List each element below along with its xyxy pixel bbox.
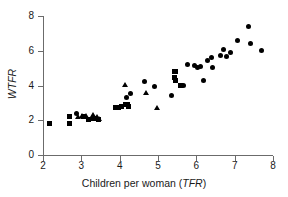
data-point-square xyxy=(47,121,52,126)
data-point-circle xyxy=(142,79,147,84)
data-point-circle xyxy=(152,84,157,89)
data-point-circle xyxy=(201,78,206,83)
data-point-square xyxy=(173,69,178,74)
data-point-circle xyxy=(246,24,251,29)
data-point-square xyxy=(126,104,131,109)
data-point-triangle xyxy=(154,105,160,110)
data-point-circle xyxy=(248,41,253,46)
y-axis-title: WTFR xyxy=(6,54,18,114)
data-point-circle xyxy=(169,93,174,98)
data-point-circle xyxy=(128,91,133,96)
data-point-circle xyxy=(209,55,214,60)
data-point-triangle xyxy=(96,116,102,121)
plot-area xyxy=(0,0,288,197)
data-point-circle xyxy=(235,38,240,43)
x-axis-title-italic: TFR xyxy=(182,177,202,189)
data-point-circle xyxy=(181,83,186,88)
data-point-square xyxy=(67,121,72,126)
data-point-circle xyxy=(218,53,223,58)
data-point-circle xyxy=(224,54,229,59)
data-point-square xyxy=(67,114,72,119)
data-point-circle xyxy=(221,47,226,52)
data-point-triangle xyxy=(122,82,128,87)
data-point-circle xyxy=(198,64,203,69)
data-point-circle xyxy=(210,65,215,70)
data-point-circle xyxy=(124,95,129,100)
data-point-triangle xyxy=(83,113,89,118)
data-point-circle xyxy=(259,48,264,53)
data-point-circle xyxy=(228,50,233,55)
x-axis-title-text: Children per woman ( xyxy=(82,177,182,189)
data-point-circle xyxy=(185,62,190,67)
x-axis-title: Children per woman (TFR) xyxy=(0,177,288,189)
x-axis-title-tail: ) xyxy=(203,177,207,189)
scatter-chart-figure: 02468 2345678 Children per woman (TFR) W… xyxy=(0,0,288,197)
data-point-triangle xyxy=(143,90,149,95)
